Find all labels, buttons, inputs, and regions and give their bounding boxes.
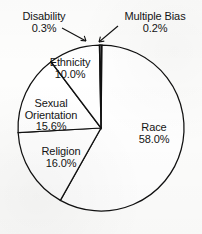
pie-label-religion-name: Religion <box>28 146 94 158</box>
pie-label-sexual-orientation-value: 15.6% <box>8 121 94 133</box>
pie-label-disability: Disability 0.3% <box>6 11 82 34</box>
pie-label-race-value: 58.0% <box>122 134 186 146</box>
pie-label-ethnicity: Ethnicity 10.0% <box>36 57 104 80</box>
pie-label-disability-value: 0.3% <box>6 23 82 35</box>
pie-label-disability-name: Disability <box>6 11 82 23</box>
pie-label-religion-value: 16.0% <box>28 158 94 170</box>
pie-label-ethnicity-name: Ethnicity <box>36 57 104 69</box>
pie-chart: Disability 0.3% Multiple Bias 0.2% Ethni… <box>0 0 202 234</box>
pie-label-multiple-bias: Multiple Bias 0.2% <box>112 11 198 34</box>
pie-label-race-name: Race <box>122 122 186 134</box>
pie-label-multiple-bias-name: Multiple Bias <box>112 11 198 23</box>
pie-label-ethnicity-value: 10.0% <box>36 69 104 81</box>
pie-label-sexual-orientation: Sexual Orientation 15.6% <box>8 98 94 133</box>
pie-label-religion: Religion 16.0% <box>28 146 94 169</box>
pie-label-race: Race 58.0% <box>122 122 186 145</box>
pie-label-multiple-bias-value: 0.2% <box>112 23 198 35</box>
pie-label-sexual-orientation-name-line1: Sexual <box>8 98 94 110</box>
